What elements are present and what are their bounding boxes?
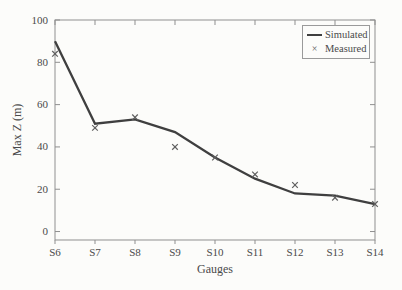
x-marker-icon: × (307, 43, 322, 55)
legend-item-measured: × Measured (307, 43, 367, 55)
legend-label-simulated: Simulated (325, 29, 368, 41)
y-axis-tick-label: 20 (37, 183, 49, 195)
y-axis-tick-label: 60 (37, 98, 49, 110)
legend: Simulated × Measured (302, 25, 370, 59)
x-axis-title: Gauges (197, 262, 233, 277)
simulated-line (55, 41, 375, 204)
y-axis-tick-label: 80 (37, 56, 49, 68)
x-axis-tick-label: S10 (206, 246, 224, 258)
x-axis-tick-label: S13 (326, 246, 344, 258)
line-sample-icon (307, 34, 322, 36)
y-axis-tick-label: 100 (32, 14, 49, 26)
y-axis-tick-label: 0 (43, 225, 49, 237)
y-axis-tick-label: 40 (37, 140, 49, 152)
legend-item-simulated: Simulated (307, 29, 367, 41)
x-axis-tick-label: S7 (89, 246, 101, 258)
x-axis-tick-label: S14 (366, 246, 384, 258)
y-axis-title: Max Z (m) (10, 104, 25, 157)
x-axis-tick-label: S9 (169, 246, 181, 258)
x-axis-tick-label: S6 (49, 246, 61, 258)
legend-label-measured: Measured (325, 43, 366, 55)
x-axis-tick-label: S11 (247, 246, 264, 258)
x-axis-tick-label: S8 (129, 246, 141, 258)
x-axis-tick-label: S12 (286, 246, 303, 258)
chart-figure: 020406080100S6S7S8S9S10S11S12S13S14 Max … (0, 0, 402, 290)
